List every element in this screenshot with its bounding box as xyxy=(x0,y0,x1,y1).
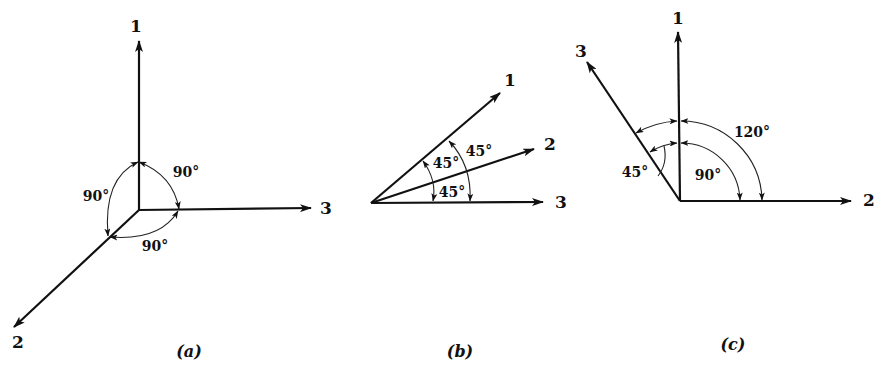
axis-3-arrow xyxy=(587,62,680,201)
angle-arc-2-3 xyxy=(110,211,178,237)
angle-label-2-3: 90° xyxy=(142,238,168,254)
angle-label-1-3: 90° xyxy=(173,164,199,180)
axis-1-label: 1 xyxy=(672,8,684,28)
panel-c: 1 2 3 90° 120° 45° (c) xyxy=(575,8,875,354)
axis-1-label: 1 xyxy=(130,16,142,36)
angle-label-1-3: 45° xyxy=(466,143,492,159)
angle-arc-3-1-outer xyxy=(636,121,677,133)
axis-3-label: 3 xyxy=(555,192,567,212)
caption-b: (b) xyxy=(447,342,473,361)
axis-3-label: 3 xyxy=(575,41,587,61)
angle-label-1-2: 90° xyxy=(695,167,721,183)
angle-label-1-2: 45° xyxy=(433,155,459,171)
caption-c: (c) xyxy=(721,335,746,354)
coordinate-axes-figure: 1 2 3 90° 90° 90° (a) 1 2 3 45° 45° 45° … xyxy=(0,0,875,370)
axis-3-arrow xyxy=(371,202,543,203)
angle-label-3-2: 120° xyxy=(734,124,770,140)
panel-a: 1 2 3 90° 90° 90° (a) xyxy=(12,16,332,361)
angle-label-3-1: 45° xyxy=(622,164,648,180)
axis-2-label: 2 xyxy=(863,190,875,210)
axis-1-label: 1 xyxy=(504,70,516,90)
angle-arc-3-1-inner xyxy=(650,143,677,152)
axis-2-label: 2 xyxy=(544,134,556,154)
angle-label-1-2: 90° xyxy=(83,188,109,204)
angle-label-2-3: 45° xyxy=(439,184,465,200)
axis-3-label: 3 xyxy=(320,198,332,218)
panel-b: 1 2 3 45° 45° 45° (b) xyxy=(371,70,567,361)
caption-a: (a) xyxy=(176,342,202,361)
axis-2-label: 2 xyxy=(12,332,24,352)
axis-2-arrow xyxy=(14,210,139,327)
axis-3-arrow xyxy=(139,208,311,210)
axis-1-arrow xyxy=(678,32,680,201)
